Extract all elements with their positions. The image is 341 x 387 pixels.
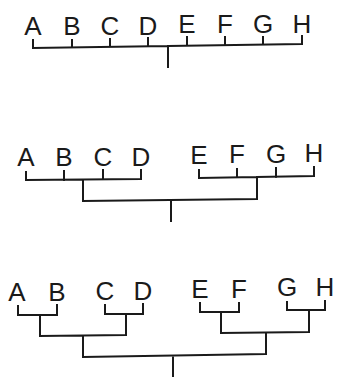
leaf-label-b: B: [63, 11, 80, 41]
leaf-label-g: G: [266, 139, 286, 169]
leaf-label-e: E: [191, 274, 208, 304]
leaf-label-c: C: [96, 276, 115, 306]
tree-diagram-canvas: A B C D E F G H A B C D E F G H A B C D …: [0, 0, 341, 387]
branch-lines: [26, 167, 314, 221]
panel-flat-tree: A B C D E F G H: [24, 9, 311, 67]
panel-two-group-tree: A B C D E F G H: [17, 138, 323, 221]
leaf-label-f: F: [229, 139, 245, 169]
leaf-label-e: E: [190, 140, 207, 170]
leaf-label-h: H: [305, 138, 324, 168]
leaf-label-f: F: [217, 9, 233, 39]
leaf-label-d: D: [132, 142, 151, 172]
leaf-label-d: D: [134, 276, 153, 306]
leaf-label-d: D: [139, 11, 158, 41]
leaf-label-b: B: [48, 277, 65, 307]
panel-binary-tree: A B C D E F G H: [8, 272, 334, 376]
leaf-label-c: C: [94, 142, 113, 172]
leaf-label-e: E: [178, 9, 195, 39]
leaf-label-a: A: [17, 142, 35, 172]
leaf-label-g: G: [277, 272, 297, 302]
branch-lines: [18, 301, 325, 376]
leaf-label-h: H: [316, 272, 335, 302]
leaf-label-h: H: [293, 9, 312, 39]
leaf-label-c: C: [101, 11, 120, 41]
leaf-label-b: B: [55, 142, 72, 172]
leaf-label-a: A: [24, 11, 42, 41]
leaf-label-g: G: [253, 9, 273, 39]
leaf-label-a: A: [8, 277, 26, 307]
leaf-label-f: F: [231, 274, 247, 304]
